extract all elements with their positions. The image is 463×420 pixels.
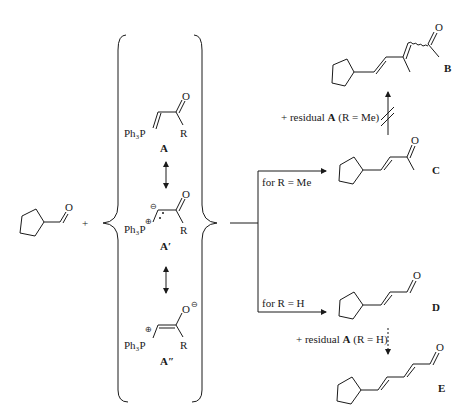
svg-text:O: O	[436, 341, 444, 353]
oxygen-atom: O	[65, 201, 73, 213]
label-A-double-prime: A″	[160, 355, 174, 367]
svg-text:R: R	[180, 339, 188, 351]
ylide-A: Ph₃P O R A	[124, 90, 190, 154]
svg-text:Ph₃P: Ph₃P	[124, 127, 146, 139]
label-B: B	[444, 62, 452, 74]
svg-text:⊕: ⊕	[145, 217, 152, 226]
product-E: O E	[337, 341, 445, 404]
condition-R-H: for R = H	[262, 297, 305, 309]
reaction-scheme: O + Ph₃P O R A Ph₃P ⊕ ⊖ O R A′	[0, 0, 463, 420]
plus-sign: +	[82, 217, 88, 229]
svg-text:O: O	[182, 303, 190, 315]
svg-text:O: O	[413, 269, 421, 281]
svg-text:O: O	[435, 21, 443, 33]
branch-arrows	[230, 171, 326, 312]
residual-A-H-label: + residual A (R = H)	[296, 333, 388, 346]
ylide-A-double-prime: Ph₃P ⊕ O ⊖ R A″	[124, 300, 198, 367]
label-E: E	[438, 382, 445, 394]
svg-text:⊖: ⊖	[150, 202, 157, 211]
reactant-aldehyde: O	[20, 201, 73, 236]
svg-text:O: O	[182, 90, 190, 102]
svg-text:Ph₃P: Ph₃P	[124, 339, 146, 351]
product-D: O D	[339, 269, 440, 319]
svg-text:R: R	[180, 127, 188, 139]
svg-text:R: R	[180, 224, 188, 236]
blocked-arrow-C-to-B	[381, 92, 394, 135]
residual-A-Me-label: + residual A (R = Me)	[281, 111, 380, 124]
svg-text:O: O	[411, 134, 419, 146]
svg-text:⊖: ⊖	[191, 300, 198, 309]
product-C: O C	[339, 134, 440, 184]
label-A: A	[160, 142, 168, 154]
svg-text:Ph₃P: Ph₃P	[124, 223, 146, 235]
product-B: O B	[332, 21, 452, 86]
label-C: C	[432, 164, 440, 176]
label-D: D	[432, 301, 440, 313]
label-A-prime: A′	[160, 240, 171, 252]
condition-R-Me: for R = Me	[262, 176, 311, 188]
svg-text:⊕: ⊕	[145, 325, 152, 334]
ylide-A-prime: Ph₃P ⊕ ⊖ O R A′	[124, 188, 190, 252]
svg-text:O: O	[182, 188, 190, 200]
